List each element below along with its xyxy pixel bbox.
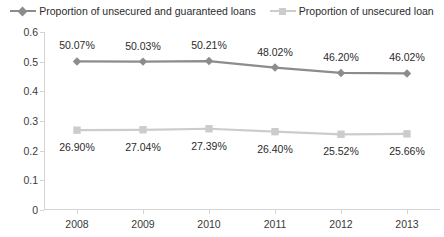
data-point-marker[interactable]: [139, 57, 147, 65]
data-point-marker[interactable]: [271, 63, 279, 71]
y-axis-label: 0.2: [23, 145, 38, 157]
y-axis-label: 0.4: [23, 85, 38, 97]
x-axis-tick: [209, 210, 210, 214]
data-point-marker[interactable]: [271, 128, 278, 135]
y-axis-label: 0.5: [23, 56, 38, 68]
x-axis-tick: [275, 210, 276, 214]
data-point-marker[interactable]: [73, 126, 80, 133]
data-point-marker[interactable]: [337, 69, 345, 77]
data-point-marker[interactable]: [403, 130, 410, 137]
square-marker-icon: [270, 6, 296, 16]
x-axis-label: 2008: [65, 218, 88, 230]
diamond-marker-icon: [10, 6, 36, 16]
data-point-marker[interactable]: [139, 126, 146, 133]
data-point-marker[interactable]: [403, 69, 411, 77]
x-axis-tick: [341, 210, 342, 214]
y-axis-label: 0.6: [23, 26, 38, 38]
x-axis-label: 2011: [264, 218, 287, 230]
line-chart: Proportion of unsecured and guaranteed l…: [0, 0, 444, 237]
x-axis-tick: [143, 210, 144, 214]
series-lines: [44, 32, 440, 210]
y-axis-tick: [40, 210, 44, 211]
x-axis-tick: [77, 210, 78, 214]
legend-item-unsecured[interactable]: Proportion of unsecured loan: [270, 6, 434, 17]
data-point-marker[interactable]: [73, 57, 81, 65]
data-point-marker[interactable]: [205, 57, 213, 65]
y-axis-label: 0: [32, 204, 38, 216]
x-axis-label: 2012: [329, 218, 352, 230]
plot-area: 00.10.20.30.40.50.6 20082009201020112012…: [44, 32, 440, 210]
x-axis-label: 2010: [197, 218, 220, 230]
data-point-marker[interactable]: [205, 125, 212, 132]
data-point-marker[interactable]: [337, 131, 344, 138]
legend-label: Proportion of unsecured and guaranteed l…: [39, 6, 256, 17]
x-axis-label: 2013: [395, 218, 418, 230]
legend-label: Proportion of unsecured loan: [299, 6, 434, 17]
series-line: [77, 61, 407, 73]
series-line: [77, 129, 407, 135]
legend-item-unsecured-and-guaranteed[interactable]: Proportion of unsecured and guaranteed l…: [10, 6, 256, 17]
x-axis-tick: [407, 210, 408, 214]
chart-legend: Proportion of unsecured and guaranteed l…: [0, 0, 444, 22]
y-axis-label: 0.3: [23, 115, 38, 127]
y-axis-label: 0.1: [23, 174, 38, 186]
x-axis-label: 2009: [131, 218, 154, 230]
